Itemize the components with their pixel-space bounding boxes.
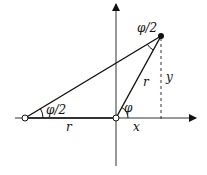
x-label: x (133, 120, 140, 134)
radius-base-label: r (66, 120, 73, 134)
triangle-angle-diagram: φ/2 φ/2 φ r r x y (0, 0, 207, 175)
radius-slant-label: r (143, 75, 150, 89)
y-label: y (165, 70, 173, 84)
origin-point (113, 115, 119, 121)
angle-phi-label: φ (124, 101, 133, 115)
half-angle-top-label: φ/2 (137, 21, 157, 35)
angle-arc-left (40, 109, 43, 118)
point-p (158, 33, 164, 39)
left-point (22, 115, 28, 121)
radius-line (116, 36, 161, 118)
half-angle-left-label: φ/2 (46, 103, 66, 117)
angle-arc-top (147, 44, 153, 50)
